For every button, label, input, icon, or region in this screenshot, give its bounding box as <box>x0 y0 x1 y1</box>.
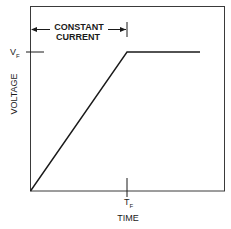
voltage-curve <box>31 52 201 191</box>
y-axis-label: VOLTAGE <box>9 73 19 114</box>
left-arrow-icon <box>31 27 37 32</box>
x-axis-label: TIME <box>117 213 139 223</box>
vf-label-subscript: F <box>16 53 20 59</box>
voltage-time-diagram: CONSTANT CURRENT V F T F TIME VOLTAGE <box>0 0 231 229</box>
annotation-line-2: CURRENT <box>56 32 101 42</box>
tf-label-subscript: F <box>130 203 134 209</box>
annotation-line-1: CONSTANT <box>54 22 104 32</box>
right-arrow-icon <box>120 27 126 32</box>
